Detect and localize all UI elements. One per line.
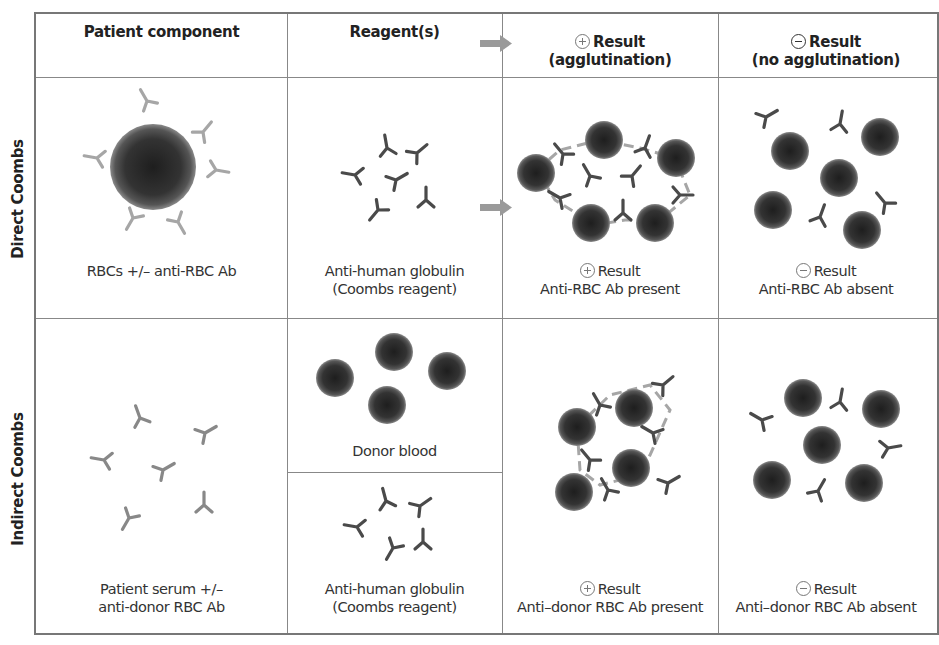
caption-direct-patient-component: RBCs +/– anti-RBC Ab	[36, 262, 287, 280]
caption-direct-reagent: Anti-human globulin (Coombs reagent)	[287, 262, 502, 298]
coombs-reagent-illustration	[341, 134, 434, 225]
caption-line: Donor blood	[287, 442, 502, 460]
caption-line: Anti–donor RBC Ab absent	[718, 598, 934, 616]
caption-line: (Coombs reagent)	[287, 598, 502, 616]
caption-line: Anti-RBC Ab present	[502, 280, 718, 298]
minus-circle-icon	[796, 581, 811, 596]
caption-line: Anti-human globulin	[287, 580, 502, 598]
donor-blood-illustration	[316, 333, 466, 424]
caption-indirect-negative: Result Anti–donor RBC Ab absent	[718, 580, 934, 616]
caption-line: Patient serum +/–	[36, 580, 287, 598]
caption-indirect-reagent-donor: Donor blood	[287, 442, 502, 460]
caption-line: Anti-RBC Ab absent	[718, 280, 934, 298]
minus-circle-icon	[796, 263, 811, 278]
caption-line: RBCs +/– anti-RBC Ab	[36, 262, 287, 280]
arrow-icon	[480, 35, 512, 52]
caption-direct-positive: Result Anti-RBC Ab present	[502, 262, 718, 298]
arrow-icon	[480, 199, 512, 216]
agglutination-illustration	[517, 121, 695, 242]
caption-indirect-reagent-coombs: Anti-human globulin (Coombs reagent)	[287, 580, 502, 616]
caption-line: Result	[814, 263, 856, 279]
plus-circle-icon	[580, 263, 595, 278]
caption-line: Anti-human globulin	[287, 262, 502, 280]
coombs-reagent-illustration	[343, 486, 435, 563]
patient-serum-antibodies-illustration	[90, 403, 220, 533]
caption-indirect-patient-component: Patient serum +/– anti-donor RBC Ab	[36, 580, 287, 616]
caption-direct-negative: Result Anti-RBC Ab absent	[718, 262, 934, 298]
caption-line: Result	[598, 263, 640, 279]
caption-line: Result	[598, 581, 640, 597]
agglutination-illustration	[555, 371, 683, 511]
caption-line: Result	[814, 581, 856, 597]
caption-line: anti-donor RBC Ab	[36, 598, 287, 616]
caption-line: (Coombs reagent)	[287, 280, 502, 298]
no-agglutination-illustration	[754, 104, 899, 249]
plus-circle-icon	[580, 581, 595, 596]
caption-indirect-positive: Result Anti–donor RBC Ab present	[502, 580, 718, 616]
caption-line: Anti–donor RBC Ab present	[502, 598, 718, 616]
rbc-with-antibodies-illustration	[83, 86, 230, 238]
no-agglutination-illustration	[747, 379, 902, 502]
